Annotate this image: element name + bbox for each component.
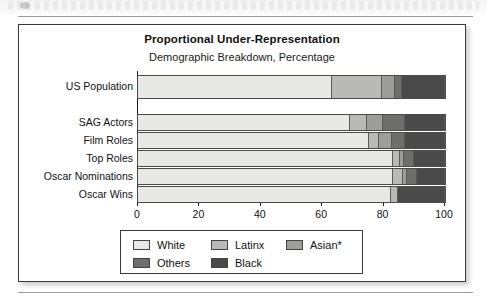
bar-segment-latinx (393, 151, 400, 166)
bar-segment-black (398, 187, 445, 202)
bar-segment-black (405, 133, 445, 148)
scanned-page-top-strip (0, 0, 487, 14)
x-tick-label-60: 60 (315, 208, 327, 220)
bar-row (137, 186, 446, 203)
bar-segment-latinx (393, 169, 403, 184)
category-label-sag-actors: SAG Actors (21, 116, 133, 128)
legend-label: White (157, 239, 185, 251)
legend-label: Asian* (310, 239, 342, 251)
legend-item-black[interactable]: Black (211, 257, 262, 269)
bar-segment-black (402, 76, 445, 98)
bar-segment-latinx (350, 115, 366, 130)
legend-item-others[interactable]: Others (133, 257, 190, 269)
legend-item-latinx[interactable]: Latinx (211, 239, 264, 251)
bar-segment-white (138, 169, 393, 184)
bar-segment-white (138, 151, 393, 166)
legend-swatch-white-icon (133, 240, 150, 250)
faded-glyph-artifact (20, 2, 30, 9)
legend-swatch-others-icon (133, 258, 150, 268)
category-label-oscar-nominations: Oscar Nominations (21, 170, 133, 182)
x-tick-label-80: 80 (377, 208, 389, 220)
bar-row (137, 132, 446, 149)
bar-segment-black (417, 169, 445, 184)
legend-label: Latinx (235, 239, 264, 251)
bar-row (137, 75, 446, 99)
faded-text-artifact (8, 1, 479, 10)
bar-segment-black (414, 151, 445, 166)
bar-segment-white (138, 115, 350, 130)
bar-segment-others (407, 169, 417, 184)
x-tick-label-40: 40 (254, 208, 266, 220)
legend-item-white[interactable]: White (133, 239, 185, 251)
figure-container: Proportional Under-Representation Demogr… (18, 24, 466, 282)
bar-row (137, 114, 446, 131)
bar-segment-latinx (369, 133, 379, 148)
bar-segment-black (405, 115, 445, 130)
y-axis-category-labels: US PopulationSAG ActorsFilm RolesTop Rol… (19, 25, 133, 281)
x-tick-label-20: 20 (193, 208, 205, 220)
x-tick-label-100: 100 (435, 208, 453, 220)
page-rule-top (18, 16, 473, 17)
legend-swatch-asian-icon (286, 240, 303, 250)
legend-row: OthersBlack (121, 254, 362, 272)
category-label-top-roles: Top Roles (21, 152, 133, 164)
bar-segment-white (138, 76, 332, 98)
legend-swatch-black-icon (211, 258, 228, 268)
bar-row (137, 150, 446, 167)
bar-segment-others (404, 151, 414, 166)
bar-segment-white (138, 133, 369, 148)
bar-segment-asian (367, 115, 383, 130)
bar-segment-asian (382, 76, 395, 98)
legend-item-asian[interactable]: Asian* (286, 239, 342, 251)
page-rule-bottom (18, 292, 473, 293)
chart-legend: WhiteLatinxAsian*OthersBlack (120, 230, 363, 274)
legend-row: WhiteLatinxAsian* (121, 236, 362, 254)
bar-segment-latinx (391, 187, 398, 202)
x-tick-label-0: 0 (134, 208, 140, 220)
bar-segment-latinx (332, 76, 381, 98)
bar-segment-white (138, 187, 391, 202)
bar-segment-others (392, 133, 405, 148)
legend-swatch-latinx-icon (211, 240, 228, 250)
bar-segment-others (395, 76, 402, 98)
legend-label: Others (157, 257, 190, 269)
category-label-oscar-wins: Oscar Wins (21, 188, 133, 200)
category-label-film-roles: Film Roles (21, 134, 133, 146)
bar-segment-others (383, 115, 405, 130)
category-label-us-population: US Population (21, 80, 133, 92)
legend-label: Black (235, 257, 262, 269)
bar-segment-asian (379, 133, 392, 148)
bar-row (137, 168, 446, 185)
